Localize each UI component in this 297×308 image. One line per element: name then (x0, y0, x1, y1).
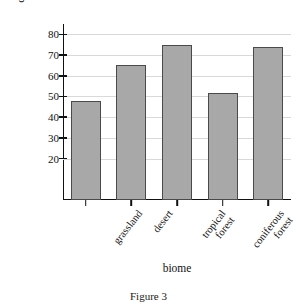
y-tick-label: 20 (48, 153, 59, 164)
y-axis-title: % of ammonium converted to nitrate (2, 0, 22, 26)
bar (208, 93, 238, 200)
y-tick-label: 40 (48, 112, 59, 123)
bar-series (63, 24, 291, 200)
bar (71, 101, 101, 200)
x-tick-label: grassland (111, 208, 144, 246)
x-tick-label: tropicalforest (199, 208, 236, 247)
x-tick-mark (85, 200, 87, 206)
y-tick-label: 30 (48, 132, 59, 143)
x-tick-label-line: grassland (111, 208, 144, 246)
bar (162, 45, 192, 200)
x-tick-mark (131, 200, 133, 206)
x-tick-mark (222, 200, 224, 206)
y-tick-label: 60 (48, 70, 59, 81)
y-tick-label: 80 (48, 29, 59, 40)
bar (253, 47, 283, 200)
bar (116, 65, 146, 200)
y-tick-label: 70 (48, 50, 59, 61)
y-axis-title-line-1: % of ammonium (2, 0, 14, 26)
x-tick-label-line: deciduous (295, 208, 297, 248)
x-tick-mark (176, 200, 178, 206)
x-tick-label: desert (151, 208, 175, 235)
y-tick-label: 50 (48, 91, 59, 102)
figure-caption: Figure 3 (0, 290, 297, 302)
x-tick-label-line: desert (151, 208, 175, 235)
y-axis-title-line-2: converted to nitrate (14, 0, 26, 26)
x-tick-label: deciduousforest (295, 208, 297, 255)
x-axis-title: biome (63, 262, 291, 274)
x-tick-label: coniferousforest (250, 208, 295, 256)
x-tick-mark (267, 200, 269, 206)
plot-area: 20304050607080 grasslanddeserttropicalfo… (63, 24, 291, 200)
